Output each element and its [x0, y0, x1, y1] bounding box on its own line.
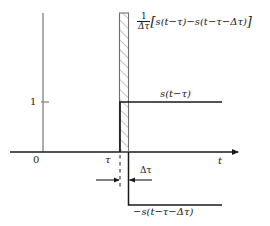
one-over-delta-tau-fraction: 1 Δτ: [137, 12, 150, 32]
fraction-denominator: Δτ: [137, 22, 150, 31]
expression-term-2: s(t−τ−Δτ): [195, 17, 247, 27]
tau-axis-label: τ: [105, 155, 111, 165]
lower-step-label: −s(t−τ−Δτ): [133, 207, 193, 217]
impulse-expression-label: 1 Δτ [ s(t−τ) − s(t−τ−Δτ) ]: [137, 12, 252, 32]
delta-tau-label: Δτ: [140, 166, 151, 175]
signal-pulse-diagram: 1 Δτ [ s(t−τ) − s(t−τ−Δτ) ] 1 0 τ t Δτ s…: [0, 0, 270, 226]
expression-term-1: s(t−τ): [156, 17, 187, 27]
lower-step-curve: [129, 152, 223, 205]
origin-label: 0: [33, 155, 39, 165]
t-axis-label: t: [218, 156, 222, 166]
expression-operator: −: [186, 17, 194, 27]
y-tick-label-one: 1: [30, 97, 36, 107]
diagram-canvas: [0, 0, 270, 226]
bracket-close: ]: [247, 15, 252, 28]
upper-step-curve: [120, 102, 222, 152]
upper-step-label: s(t−τ): [160, 89, 191, 99]
